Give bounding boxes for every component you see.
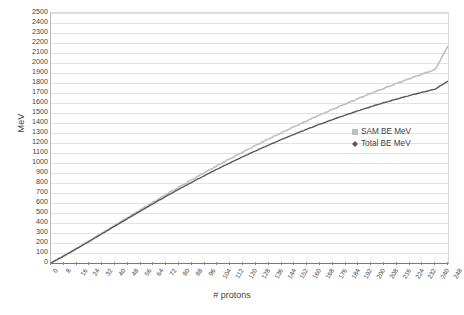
y-tick-label: 900 bbox=[18, 168, 48, 175]
y-tick-label: 300 bbox=[18, 228, 48, 235]
y-tick-label: 2500 bbox=[18, 8, 48, 15]
y-tick-label: 1600 bbox=[18, 98, 48, 105]
x-tick-label: 64 bbox=[156, 268, 165, 277]
x-tick-label: 128 bbox=[260, 268, 271, 280]
y-tick-label: 1900 bbox=[18, 68, 48, 75]
x-tick-label: 152 bbox=[299, 268, 310, 280]
x-tick-label: 112 bbox=[235, 268, 246, 280]
x-tick-label: 192 bbox=[363, 268, 374, 280]
x-tick-label: 80 bbox=[182, 268, 191, 277]
square-marker-icon bbox=[352, 129, 358, 135]
y-tick-label: 1300 bbox=[18, 128, 48, 135]
x-tick-label: 24 bbox=[92, 268, 101, 277]
x-tick-label: 0 bbox=[52, 268, 59, 274]
y-tick-label: 2300 bbox=[18, 28, 48, 35]
x-tick-label: 72 bbox=[169, 268, 178, 277]
y-tick-label: 1000 bbox=[18, 158, 48, 165]
series-line-total-be bbox=[51, 81, 448, 263]
x-tick-label: 232 bbox=[427, 268, 438, 280]
x-tick-label: 248 bbox=[453, 268, 464, 280]
y-tick-label: 2100 bbox=[18, 48, 48, 55]
y-tick-label: 2000 bbox=[18, 58, 48, 65]
x-tick-label: 120 bbox=[248, 268, 259, 280]
x-tick-label: 8 bbox=[65, 268, 72, 274]
y-tick-label: 1100 bbox=[18, 148, 48, 155]
y-tick-label: 700 bbox=[18, 188, 48, 195]
chart-legend: SAM BE MeV Total BE MeV bbox=[352, 126, 411, 150]
x-axis-title: # protons bbox=[0, 290, 464, 300]
y-tick-label: 1700 bbox=[18, 88, 48, 95]
x-tick-label: 200 bbox=[376, 268, 387, 280]
y-tick-label: 400 bbox=[18, 218, 48, 225]
y-tick-label: 2400 bbox=[18, 18, 48, 25]
legend-item-total-be: Total BE MeV bbox=[352, 138, 411, 150]
x-tick-label: 32 bbox=[105, 268, 114, 277]
y-tick-label: 1200 bbox=[18, 138, 48, 145]
x-tick-label: 176 bbox=[337, 268, 348, 280]
y-tick-label: 500 bbox=[18, 208, 48, 215]
y-tick-label: 1800 bbox=[18, 78, 48, 85]
x-tick-label: 144 bbox=[286, 268, 297, 280]
x-tick-label: 168 bbox=[324, 268, 335, 280]
x-tick-label: 160 bbox=[312, 268, 323, 280]
chart-container: MeV 010020030040050060070080090010001100… bbox=[0, 0, 464, 315]
legend-item-sam-be: SAM BE MeV bbox=[352, 126, 411, 138]
y-tick-label: 2200 bbox=[18, 38, 48, 45]
y-tick-label: 200 bbox=[18, 238, 48, 245]
legend-label: SAM BE MeV bbox=[361, 126, 411, 138]
y-tick-label: 1500 bbox=[18, 108, 48, 115]
x-tick-label: 136 bbox=[273, 268, 284, 280]
x-tick-label: 16 bbox=[79, 268, 88, 277]
x-tick-label: 56 bbox=[143, 268, 152, 277]
legend-label: Total BE MeV bbox=[361, 138, 411, 150]
y-tick-label: 1400 bbox=[18, 118, 48, 125]
y-tick-label: 800 bbox=[18, 178, 48, 185]
x-tick-label: 48 bbox=[131, 268, 140, 277]
x-tick-label: 96 bbox=[207, 268, 216, 277]
x-tick-label: 40 bbox=[118, 268, 127, 277]
x-tick-label: 104 bbox=[222, 268, 233, 280]
x-tick-label: 88 bbox=[195, 268, 204, 277]
y-tick-label: 100 bbox=[18, 248, 48, 255]
y-tick-label: 600 bbox=[18, 198, 48, 205]
x-tick-label: 216 bbox=[401, 268, 412, 280]
x-tick-label: 184 bbox=[350, 268, 361, 280]
x-tick-label: 224 bbox=[414, 268, 425, 280]
diamond-marker-icon bbox=[352, 138, 358, 144]
x-tick-label: 208 bbox=[389, 268, 400, 280]
x-tick-label: 240 bbox=[440, 268, 451, 280]
series-line-sam-be bbox=[51, 46, 448, 263]
